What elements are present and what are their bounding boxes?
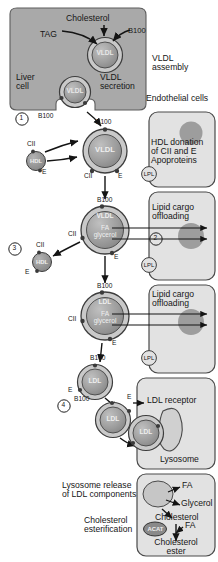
- particle-label-vldl-circulating: VLDL: [90, 146, 120, 154]
- apo-e-ldl-binding: E: [127, 394, 131, 401]
- lysosome-vesicle: [143, 481, 173, 507]
- label-vldl-secretion: VLDL secretion: [100, 73, 135, 91]
- apo-b100-ldl-off: B100: [97, 283, 112, 290]
- hdl-apo-cii-2: CII: [36, 242, 44, 249]
- label-endothelial-cells: Endothelial cells: [146, 94, 208, 103]
- cargo-label-vldl: FA glycerol: [84, 224, 126, 238]
- apo-cii-circulating: CII: [84, 173, 92, 180]
- particle-label-ldl-binding: LDL: [101, 416, 125, 423]
- step-2-number: 2: [154, 235, 158, 242]
- product-cholesterol-ester: Cholesterol ester: [145, 538, 207, 557]
- label-cholesterol: Cholesterol: [66, 14, 109, 23]
- particle-label-ldl-bound: LDL: [134, 429, 158, 436]
- product-glycerol: Glycerol: [181, 499, 213, 508]
- apo-b100-ldl-free: B100: [90, 355, 105, 362]
- particle-label-vldl-offloading: VLDL: [92, 213, 118, 220]
- hdl-label-receive: HDL: [32, 259, 52, 265]
- cargo-label-ldl: FA glycerol: [84, 310, 126, 324]
- label-lipid-cargo-1: Lipid cargo offloading: [152, 203, 194, 221]
- apo-cii-ldl-off: CII: [68, 316, 76, 323]
- label-b100-secretion: B100: [38, 113, 53, 120]
- lpl-label-3: LPL: [142, 355, 156, 361]
- particle-label-vldl-assembly: VLDL: [92, 50, 118, 57]
- label-hdl-donation: HDL donation of CII and E Apoproteins: [151, 138, 203, 164]
- label-b100-top: B100: [128, 27, 146, 35]
- label-lipid-cargo-2: Lipid cargo offloading: [152, 290, 194, 308]
- label-tag: TAG: [40, 30, 57, 39]
- diagram-root: Cholesterol TAG B100 VLDL VLDL Liver cel…: [0, 0, 218, 562]
- label-cholesterol-esterification: Cholesterol esterification: [84, 516, 132, 534]
- apo-cii-offloading: CII: [68, 231, 76, 238]
- hdl-apo-cii-1: CII: [27, 141, 35, 148]
- label-lysosome: Lysosome: [160, 455, 199, 464]
- apo-b100-offloading: B100: [97, 197, 112, 204]
- label-lysosome-release: Lysosome release of LDL components: [62, 481, 136, 499]
- hdl-apo-e-1: E: [42, 169, 46, 176]
- lpl-label-2: LPL: [142, 262, 156, 268]
- step-1-number: 1: [20, 115, 24, 122]
- label-vldl-assembly: VLDL assembly: [152, 54, 188, 72]
- product-fa-2: FA: [185, 521, 196, 530]
- step-4-number: 4: [62, 402, 66, 409]
- label-liver-cell: Liver cell: [16, 73, 35, 91]
- apo-e-ldl-free: E: [68, 387, 72, 394]
- apo-e-ldl-off: E: [112, 340, 116, 347]
- step-3-number: 3: [13, 245, 17, 252]
- product-fa-1: FA: [182, 481, 193, 490]
- particle-label-ldl-offloading: LDL: [93, 299, 117, 306]
- acat-label: ACAT: [145, 526, 166, 532]
- apo-b100-circulating: B100: [96, 119, 111, 126]
- particle-label-vldl-secretion: VLDL: [63, 88, 87, 95]
- particle-label-ldl-free: LDL: [83, 378, 107, 385]
- label-ldl-receptor: LDL receptor: [147, 396, 196, 405]
- apo-e-circulating: E: [118, 173, 122, 180]
- apo-e-offloading: E: [114, 254, 118, 261]
- hdl-apo-e-2: E: [25, 269, 29, 276]
- hdl-label-donate: HDL: [26, 158, 46, 164]
- apo-b100-ldl-binding: B100: [74, 396, 89, 403]
- lpl-label-1: LPL: [142, 171, 156, 177]
